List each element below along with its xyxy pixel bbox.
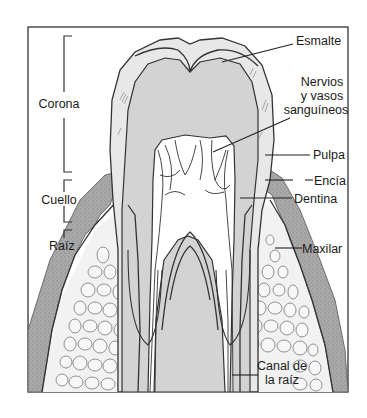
label-nerves-line2: y vasos xyxy=(301,89,343,103)
region-label-crown: Corona xyxy=(39,97,80,111)
label-gum: Encía xyxy=(314,174,346,188)
label-pulp: Pulpa xyxy=(313,148,345,162)
region-label-root: Raíz xyxy=(49,239,75,253)
label-root-canal-line1: Canal de xyxy=(257,359,307,373)
tooth-anatomy-diagram: Corona Cuello Raíz Esmalte Nervios y vas… xyxy=(0,0,367,418)
label-jaw: Maxilar xyxy=(302,242,342,256)
region-label-neck: Cuello xyxy=(41,193,76,207)
label-enamel: Esmalte xyxy=(296,34,341,48)
label-dentin: Dentina xyxy=(294,192,337,206)
label-root-canal-line2: la raíz xyxy=(265,373,299,387)
label-nerves-line3: sanguíneos xyxy=(284,103,349,117)
label-nerves-line1: Nervios xyxy=(301,75,343,89)
